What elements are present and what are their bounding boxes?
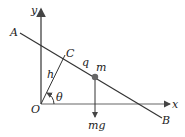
mass-label: m bbox=[96, 61, 106, 74]
x-axis-label: x bbox=[172, 98, 179, 111]
mg-label: mg bbox=[88, 119, 105, 132]
point-a-label: A bbox=[9, 26, 18, 39]
point-b-label: B bbox=[161, 114, 170, 127]
y-axis-label: y bbox=[30, 4, 38, 17]
q-label: q bbox=[82, 56, 89, 69]
origin-label: O bbox=[31, 103, 40, 116]
theta-label: θ bbox=[56, 91, 63, 104]
mass-point bbox=[92, 74, 98, 80]
h-label: h bbox=[47, 68, 54, 81]
physics-diagram: y x O A B C m h q θ mg bbox=[0, 0, 185, 137]
point-c-label: C bbox=[66, 47, 75, 60]
angle-arc bbox=[47, 93, 54, 104]
